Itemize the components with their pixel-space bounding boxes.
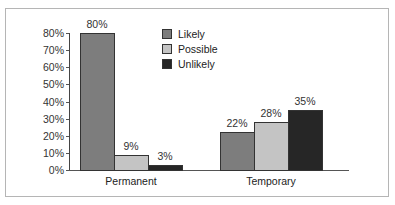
legend-item-unlikely: Unlikely <box>162 58 215 70</box>
legend-swatch-unlikely <box>162 59 172 69</box>
x-label-permanent: Permanent <box>86 175 176 187</box>
y-tick-label: 60% <box>28 61 64 73</box>
bar-value-label: 3% <box>145 150 185 162</box>
bar-permanent-likely <box>80 33 115 171</box>
y-tick-label: 70% <box>28 44 64 56</box>
bar-value-label: 80% <box>77 18 117 30</box>
bar-temporary-unlikely <box>288 110 323 171</box>
bar-temporary-possible <box>254 122 289 171</box>
bar-permanent-unlikely <box>148 165 183 171</box>
y-tick-label: 20% <box>28 130 64 142</box>
legend-swatch-likely <box>162 29 172 39</box>
legend-label-possible: Possible <box>178 43 218 55</box>
x-label-temporary: Temporary <box>226 175 316 187</box>
bar-value-label: 28% <box>251 107 291 119</box>
y-tick-label: 0% <box>28 164 64 176</box>
y-tick-label: 10% <box>28 147 64 159</box>
y-axis <box>69 33 70 171</box>
legend-item-likely: Likely <box>162 28 205 40</box>
bar-temporary-likely <box>220 132 255 171</box>
y-tick-label: 50% <box>28 78 64 90</box>
legend-item-possible: Possible <box>162 43 218 55</box>
y-tick-label: 30% <box>28 113 64 125</box>
bar-value-label: 35% <box>285 95 325 107</box>
legend-label-likely: Likely <box>178 28 205 40</box>
legend-label-unlikely: Unlikely <box>178 58 215 70</box>
legend-swatch-possible <box>162 44 172 54</box>
bar-value-label: 22% <box>217 117 257 129</box>
bar-permanent-possible <box>114 155 149 171</box>
y-tick-label: 80% <box>28 27 64 39</box>
y-tick-label: 40% <box>28 96 64 108</box>
